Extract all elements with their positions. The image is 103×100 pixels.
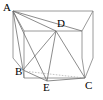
- diagonal-A-to-D: [13, 11, 56, 31]
- diagonal-A-to-top-back-left-hidden: [13, 11, 82, 31]
- edge-top-back-left-hidden-to-top-back-right: [82, 11, 93, 31]
- vertex-label-E: E: [43, 82, 50, 93]
- vertex-label-C: C: [85, 80, 92, 91]
- edge-bottom-back-right-to-C: [85, 58, 93, 78]
- diagonal-D-to-B: [23, 31, 56, 70]
- vertex-label-B: B: [15, 66, 22, 77]
- geometry-figure: A D B E C: [0, 0, 103, 100]
- diagonal-D-to-C: [56, 31, 85, 78]
- diagonal-D-to-E: [47, 31, 56, 81]
- diagonal-E-to-C: [47, 78, 85, 81]
- vertex-label-A: A: [3, 2, 11, 13]
- vertex-label-D: D: [57, 18, 65, 29]
